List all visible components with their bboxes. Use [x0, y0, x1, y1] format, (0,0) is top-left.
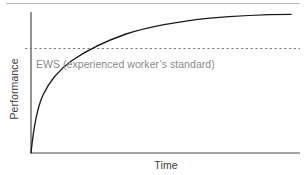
learning-curve-figure: Performance Time EWS (experienced worker…	[0, 0, 305, 175]
x-axis-label: Time	[31, 159, 301, 171]
performance-curve	[31, 14, 291, 153]
y-axis-label: Performance	[8, 44, 20, 134]
chart-plot-area	[0, 0, 305, 175]
ews-threshold-label: EWS (experienced worker’s standard)	[36, 58, 215, 70]
